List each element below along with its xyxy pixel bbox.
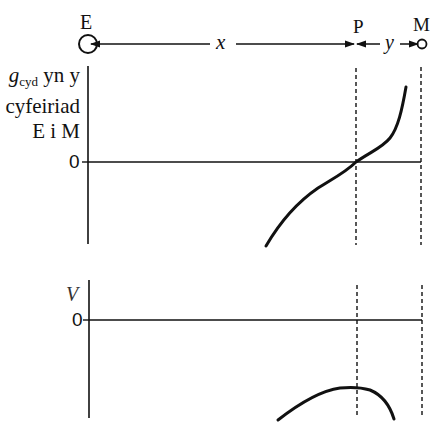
x-distance-label: x: [216, 32, 225, 53]
g-symbol: g: [9, 63, 20, 87]
y-label-line2: cyfeiriad: [5, 94, 80, 119]
moon-circle-icon: [418, 40, 427, 49]
lower-zero-label: 0: [72, 310, 83, 329]
moon-label: M: [413, 15, 430, 34]
upper-y-axis-label: gcyd yn y cyfeiriad E i M: [5, 63, 80, 144]
point-p-label: P: [353, 17, 364, 36]
y-distance-label: y: [385, 32, 394, 52]
y-label-line3: E i M: [5, 119, 80, 144]
lower-y-axis-label: V: [66, 284, 78, 304]
potential-curve: [278, 387, 394, 420]
upper-graph: [82, 66, 421, 246]
upper-zero-label: 0: [69, 152, 80, 171]
y-label-line1-rest: yn y: [38, 63, 80, 87]
g-field-curve: [266, 87, 406, 246]
earth-label: E: [80, 12, 92, 32]
top-distance-bar: [79, 35, 427, 53]
g-subscript: cyd: [19, 74, 38, 89]
lower-graph: [83, 280, 422, 420]
